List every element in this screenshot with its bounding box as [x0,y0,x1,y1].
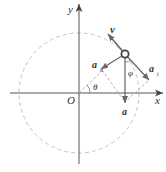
total-accel-label: a [122,106,127,117]
normal-accel-label: a [92,59,97,70]
theta-label: θ [93,82,98,92]
phi-label: φ [128,68,133,78]
at-to-a-dashed [125,81,148,102]
velocity-label: v [110,23,115,35]
particle [121,50,128,57]
circular-motion-diagram: y x O v a n a t a θ φ [0,0,166,172]
theta-arc [87,85,90,93]
y-axis-label: y [67,3,73,15]
normal-accel-subscript: n [100,67,103,73]
tangential-accel-subscript: t [157,71,159,77]
an-to-a-dashed [102,70,125,102]
x-axis-label: x [154,94,160,106]
tangential-accel-label: a [149,63,154,74]
radius-dashed-line [79,71,102,93]
origin-label: O [67,94,75,106]
